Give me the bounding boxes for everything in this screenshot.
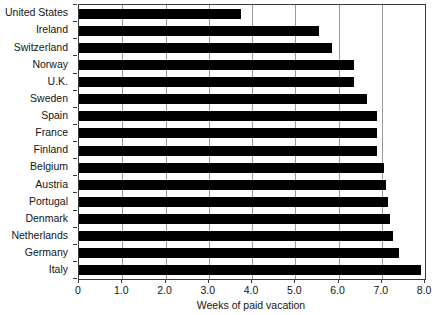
y-tick-mark (73, 261, 77, 262)
y-tick-mark (73, 107, 77, 108)
bar-row (79, 211, 425, 228)
bar (79, 248, 399, 258)
x-tick-mark (338, 279, 339, 283)
x-tick-mark (165, 279, 166, 283)
x-tick-label: 3.0 (200, 285, 215, 296)
y-tick-mark (73, 192, 77, 193)
bar (79, 9, 241, 19)
x-tick-label: 0 (75, 285, 81, 296)
y-tick-mark (73, 55, 77, 56)
bar-row (79, 56, 425, 73)
y-tick-mark (73, 38, 77, 39)
x-tick-label: 2.0 (157, 285, 172, 296)
bar (79, 214, 390, 224)
y-tick-mark (73, 158, 77, 159)
category-label: France (0, 124, 73, 141)
bar-row (79, 262, 425, 279)
bar-row (79, 5, 425, 22)
x-tick-mark (208, 279, 209, 283)
bar-row (79, 22, 425, 39)
y-tick-mark (73, 244, 77, 245)
bar-row (79, 91, 425, 108)
plot-inner (79, 5, 425, 279)
y-tick-mark (73, 4, 77, 5)
x-tick-label: 1.0 (114, 285, 129, 296)
y-tick-mark (73, 141, 77, 142)
bar (79, 26, 319, 36)
x-axis-title: Weeks of paid vacation (78, 300, 424, 311)
bar-row (79, 125, 425, 142)
bar (79, 231, 393, 241)
bar-row (79, 245, 425, 262)
y-tick-mark (73, 278, 77, 279)
x-tick-label: 4.0 (244, 285, 259, 296)
bar (79, 265, 421, 275)
x-tick-label: 8.0 (417, 285, 432, 296)
bar-row (79, 176, 425, 193)
bar-row (79, 159, 425, 176)
bar-row (79, 74, 425, 91)
x-tick-mark (251, 279, 252, 283)
category-label: U.K. (0, 73, 73, 90)
y-tick-mark (73, 210, 77, 211)
category-label: Sweden (0, 90, 73, 107)
bars-layer (79, 5, 425, 279)
bar (79, 111, 377, 121)
x-tick-mark (424, 279, 425, 283)
category-label: Norway (0, 55, 73, 72)
bar (79, 163, 384, 173)
category-label: Ireland (0, 21, 73, 38)
bar (79, 43, 332, 53)
x-tick-label: 7.0 (373, 285, 388, 296)
y-tick-mark (73, 175, 77, 176)
bar-row (79, 228, 425, 245)
x-tick-mark (121, 279, 122, 283)
bar (79, 180, 386, 190)
bar (79, 94, 367, 104)
y-tick-mark (73, 124, 77, 125)
x-tick-label: 5.0 (287, 285, 302, 296)
bar-row (79, 108, 425, 125)
bar (79, 197, 388, 207)
category-axis: United StatesIrelandSwitzerlandNorwayU.K… (0, 4, 73, 278)
y-tick-mark (73, 21, 77, 22)
category-label: Italy (0, 261, 73, 278)
bar (79, 60, 354, 70)
bar-chart: United StatesIrelandSwitzerlandNorwayU.K… (0, 0, 443, 315)
bar-row (79, 142, 425, 159)
category-label: Germany (0, 244, 73, 261)
category-label: Spain (0, 107, 73, 124)
x-tick-label: 6.0 (330, 285, 345, 296)
y-tick-mark (73, 90, 77, 91)
y-tick-mark (73, 73, 77, 74)
category-label: Denmark (0, 210, 73, 227)
bar-row (79, 39, 425, 56)
category-label: Netherlands (0, 227, 73, 244)
bar (79, 146, 377, 156)
bar (79, 77, 354, 87)
category-label: Finland (0, 141, 73, 158)
category-label: Portugal (0, 192, 73, 209)
x-tick-mark (78, 279, 79, 283)
y-tick-mark (73, 227, 77, 228)
bar-row (79, 193, 425, 210)
bar (79, 128, 377, 138)
plot-area (78, 4, 426, 280)
category-label: Switzerland (0, 38, 73, 55)
x-tick-mark (294, 279, 295, 283)
category-label: United States (0, 4, 73, 21)
category-label: Belgium (0, 158, 73, 175)
x-tick-mark (381, 279, 382, 283)
category-label: Austria (0, 175, 73, 192)
